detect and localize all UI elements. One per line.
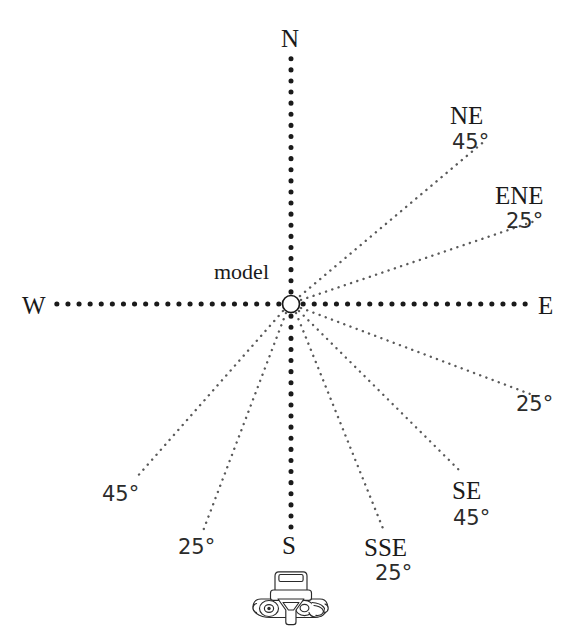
label-model: model [214,261,269,283]
ray-ssw-25 [203,313,286,531]
label-sse-angle: 25° [375,563,412,584]
ray-ne-45 [300,139,487,296]
label-ene-angle: 25° [506,211,543,232]
label-north: N [281,26,299,51]
label-west: W [22,293,46,318]
elevation-rays [136,139,538,531]
label-se-name: SE [452,478,481,503]
label-south: S [282,533,296,558]
ray-ese-25 [301,308,538,397]
model-center-marker [283,296,300,313]
label-ssw-angle: 25° [178,537,215,558]
ray-ene-25 [301,220,538,300]
label-ne-name: NE [450,103,483,128]
label-sw-angle: 45° [102,484,139,505]
label-ne-angle: 45° [452,132,489,153]
label-sse-name: SSE [364,535,407,560]
label-east: E [538,293,553,318]
ray-sw-45 [136,311,283,478]
camera-icon [252,566,330,628]
ray-sse-25 [296,313,384,531]
label-ene-name: ENE [495,183,544,208]
label-ese-angle: 25° [516,394,553,415]
ray-se-45 [299,311,462,473]
diagram-canvas: N S W E model NE 45° ENE 25° 25° SE 45° … [0,0,572,633]
label-se-angle: 45° [453,508,490,529]
